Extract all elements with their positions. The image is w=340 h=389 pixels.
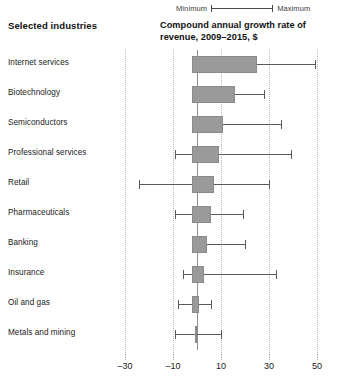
chart-legend: Minimum Maximum bbox=[176, 2, 310, 14]
row-label-professional-services: Professional services bbox=[8, 148, 86, 157]
range-bar bbox=[195, 326, 197, 343]
plot-area: Internet servicesBiotechnologySemiconduc… bbox=[0, 50, 340, 355]
legend-max-label: Maximum bbox=[277, 4, 310, 13]
whisker-cap-max bbox=[281, 120, 282, 129]
column-header-industries: Selected industries bbox=[8, 20, 97, 31]
whisker-cap-max bbox=[264, 90, 265, 99]
chart-row: Metals and mining bbox=[0, 320, 340, 350]
tick-label-30: 30 bbox=[264, 361, 274, 371]
whisker-cap-min bbox=[175, 330, 176, 339]
whisker-cap-max bbox=[291, 150, 292, 159]
whisker-cap-max bbox=[269, 180, 270, 189]
whisker-cap-max bbox=[315, 60, 316, 69]
range-bar bbox=[192, 236, 206, 253]
whisker-cap-min bbox=[178, 300, 179, 309]
whisker-cap-max bbox=[211, 300, 212, 309]
range-bar bbox=[192, 86, 235, 103]
row-label-retail: Retail bbox=[8, 178, 29, 187]
whisker-line bbox=[175, 334, 221, 335]
tick-mark-50 bbox=[317, 355, 318, 360]
range-bar bbox=[192, 206, 211, 223]
chart-row: Biotechnology bbox=[0, 80, 340, 110]
tick-mark-10 bbox=[221, 355, 222, 360]
row-label-biotechnology: Biotechnology bbox=[8, 88, 60, 97]
chart-row: Banking bbox=[0, 230, 340, 260]
growth-rate-chart: Minimum Maximum Selected industries Comp… bbox=[0, 0, 340, 389]
whisker-cap-max bbox=[221, 330, 222, 339]
tick-label--10: –10 bbox=[165, 361, 180, 371]
range-bar bbox=[192, 296, 199, 313]
whisker-cap-max bbox=[243, 210, 244, 219]
tick-mark-30 bbox=[269, 355, 270, 360]
range-bar bbox=[192, 176, 214, 193]
tick-label-10: 10 bbox=[216, 361, 226, 371]
chart-row: Pharmaceuticals bbox=[0, 200, 340, 230]
row-label-pharmaceuticals: Pharmaceuticals bbox=[8, 208, 69, 217]
column-header-metric: Compound annual growth rate of revenue, … bbox=[160, 20, 335, 43]
chart-row: Insurance bbox=[0, 260, 340, 290]
whisker-cap-min bbox=[175, 210, 176, 219]
whisker-cap-min bbox=[183, 270, 184, 279]
row-label-insurance: Insurance bbox=[8, 268, 44, 277]
chart-row: Retail bbox=[0, 170, 340, 200]
range-line-icon bbox=[211, 5, 273, 12]
range-bar bbox=[192, 146, 218, 163]
whisker-cap-min bbox=[139, 180, 140, 189]
chart-rows: Internet servicesBiotechnologySemiconduc… bbox=[0, 50, 340, 350]
tick-mark--30 bbox=[125, 355, 126, 360]
tick-mark--10 bbox=[173, 355, 174, 360]
row-label-metals-and-mining: Metals and mining bbox=[8, 328, 75, 337]
range-bar bbox=[192, 56, 257, 73]
row-label-oil-and-gas: Oil and gas bbox=[8, 298, 50, 307]
row-label-banking: Banking bbox=[8, 238, 38, 247]
row-label-internet-services: Internet services bbox=[8, 58, 69, 67]
whisker-cap-max bbox=[276, 270, 277, 279]
row-label-semiconductors: Semiconductors bbox=[8, 118, 67, 127]
legend-min-label: Minimum bbox=[176, 4, 207, 13]
tick-label--30: –30 bbox=[117, 361, 132, 371]
whisker-cap-min bbox=[175, 150, 176, 159]
chart-row: Professional services bbox=[0, 140, 340, 170]
x-axis: –30–10103050 bbox=[0, 355, 340, 381]
tick-label-50: 50 bbox=[312, 361, 322, 371]
range-bar bbox=[192, 116, 223, 133]
chart-row: Semiconductors bbox=[0, 110, 340, 140]
range-bar bbox=[192, 266, 204, 283]
chart-row: Oil and gas bbox=[0, 290, 340, 320]
whisker-cap-max bbox=[245, 240, 246, 249]
chart-row: Internet services bbox=[0, 50, 340, 80]
